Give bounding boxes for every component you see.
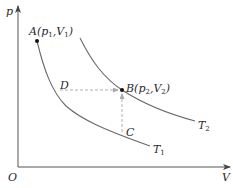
point-b-mid: ,V (150, 82, 161, 95)
isotherm-t2-curve (80, 38, 195, 121)
origin-label: O (8, 172, 17, 183)
point-c-label: C (126, 127, 134, 138)
point-b-dot (120, 88, 124, 92)
x-axis-label-text: V (222, 171, 230, 184)
point-a-mid: ,V (53, 25, 64, 38)
origin-label-text: O (8, 171, 17, 184)
y-axis-label: p (6, 6, 13, 17)
point-d-text: D (60, 79, 69, 92)
point-c-text: C (126, 126, 134, 139)
pv-diagram: p V O A(p1,V1) B(p2,V2) D C T2 T1 (0, 0, 233, 188)
point-b-text: B(p (126, 82, 145, 95)
y-axis-label-text: p (6, 5, 13, 18)
point-a-end: ) (69, 25, 73, 38)
isotherm-t2-label: T2 (198, 120, 210, 133)
x-axis-label: V (222, 172, 230, 183)
isotherm-t1-label: T1 (153, 144, 165, 157)
point-a-label: A(p1,V1) (29, 26, 73, 39)
t1-label-sub: 1 (160, 149, 164, 157)
point-a-text: A(p (29, 25, 48, 38)
point-b-end: ) (166, 82, 170, 95)
point-d-label: D (60, 80, 69, 91)
point-b-label: B(p2,V2) (126, 83, 170, 96)
t2-label-sub: 2 (205, 125, 209, 133)
point-a-dot (35, 39, 39, 43)
